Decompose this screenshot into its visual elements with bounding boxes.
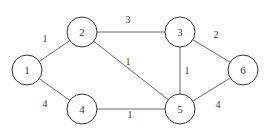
node-5: 5 [165, 94, 195, 124]
edge-weight-2-5: 1 [126, 56, 131, 67]
node-1: 1 [12, 55, 42, 85]
edge-2-5 [82, 32, 180, 109]
edge-weight-1-4: 4 [43, 98, 48, 109]
edge-weight-4-5: 1 [128, 109, 133, 120]
node-label: 6 [240, 64, 246, 76]
node-label: 4 [79, 103, 85, 115]
node-label: 3 [177, 26, 183, 38]
node-label: 2 [79, 26, 85, 38]
edge-weight-5-6: 4 [216, 99, 221, 110]
edge-weight-1-2: 1 [43, 33, 48, 44]
node-label: 1 [24, 64, 30, 76]
nodes: 123456 [12, 17, 258, 124]
node-4: 4 [67, 94, 97, 124]
node-6: 6 [228, 55, 258, 85]
edge-weight-2-3: 3 [126, 14, 131, 25]
node-label: 5 [177, 103, 183, 115]
edges [27, 32, 243, 109]
weighted-graph-diagram: 14311124 123456 [0, 0, 270, 135]
node-3: 3 [165, 17, 195, 47]
node-2: 2 [67, 17, 97, 47]
edge-weight-3-5: 1 [185, 65, 190, 76]
edge-weight-3-6: 2 [214, 29, 219, 40]
